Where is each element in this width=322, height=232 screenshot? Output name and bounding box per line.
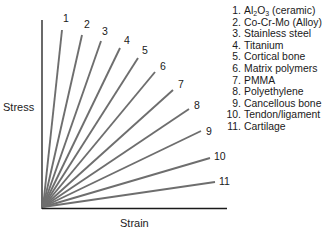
legend-text: Matrix polymers (244, 63, 317, 75)
legend-item-8: 8.Polyethylene (222, 86, 322, 98)
legend-item-10: 10.Tendon/ligament (222, 109, 322, 121)
legend-text: Titanium (244, 40, 283, 52)
material-line-10 (43, 158, 210, 207)
legend-item-7: 7.PMMA (222, 75, 322, 87)
legend-text: Cortical bone (244, 51, 305, 63)
material-line-8 (43, 109, 189, 207)
material-line-label-2: 2 (84, 18, 90, 30)
legend-item-3: 3.Stainless steel (222, 28, 322, 40)
legend-item-5: 5.Cortical bone (222, 51, 322, 63)
legend-text: Cartilage (244, 121, 286, 133)
legend-item-11: 11.Cartilage (222, 121, 322, 133)
legend: 1. Al2O3 (ceramic) 2.Co-Cr-Mo (Alloy) 3.… (222, 5, 322, 133)
material-line-label-7: 7 (178, 78, 184, 90)
y-axis-label: Stress (3, 101, 34, 113)
legend-text: PMMA (244, 75, 275, 87)
material-line-labels: 1234567891011 (63, 12, 230, 187)
material-line-label-1: 1 (63, 12, 69, 24)
material-lines (43, 30, 215, 207)
material-line-2 (43, 35, 82, 207)
legend-text: Stainless steel (244, 28, 311, 40)
material-line-label-5: 5 (142, 44, 148, 56)
legend-text: Polyethylene (244, 86, 304, 98)
material-line-label-4: 4 (124, 34, 130, 46)
legend-text: Tendon/ligament (244, 109, 320, 121)
legend-item-2: 2.Co-Cr-Mo (Alloy) (222, 17, 322, 29)
legend-item-9: 9.Cancellous bone (222, 98, 322, 110)
material-line-label-3: 3 (102, 25, 108, 37)
legend-item-4: 4.Titanium (222, 40, 322, 52)
legend-text: Cancellous bone (244, 98, 321, 110)
legend-item-1: 1. Al2O3 (ceramic) (222, 5, 322, 17)
x-axis-label: Strain (120, 217, 149, 229)
legend-text: Co-Cr-Mo (Alloy) (244, 17, 322, 29)
material-line-label-6: 6 (160, 60, 166, 72)
legend-item-6: 6.Matrix polymers (222, 63, 322, 75)
material-line-label-9: 9 (206, 125, 212, 137)
material-line-label-8: 8 (194, 99, 200, 111)
material-line-label-11: 11 (219, 175, 230, 187)
legend-text: Al2O3 (ceramic) (244, 5, 315, 17)
material-line-label-10: 10 (214, 150, 226, 162)
